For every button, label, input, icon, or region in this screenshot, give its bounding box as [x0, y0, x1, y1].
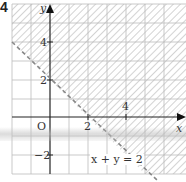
question-number: 4	[0, 0, 8, 14]
y-tick-label-4: 4	[40, 37, 47, 48]
x-tick-label-2: 2	[84, 121, 91, 132]
inequality-graph: 4 y x O 4 2 −2 2 4 x + y = 2	[0, 0, 186, 182]
origin-label: O	[37, 121, 46, 132]
x-axis-label: x	[176, 123, 182, 134]
y-tick-label-2: 2	[40, 75, 47, 86]
y-axis-label: y	[40, 3, 46, 14]
x-tick-label-4: 4	[122, 101, 129, 112]
y-tick-label-neg2: −2	[34, 150, 50, 161]
boundary-equation-label: x + y = 2	[90, 154, 144, 165]
scan-shadow-band	[0, 127, 186, 141]
